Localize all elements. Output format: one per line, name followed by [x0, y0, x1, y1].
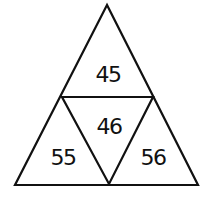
inner-inverted-triangle	[62, 97, 153, 184]
right-cell-number: 56	[141, 145, 166, 170]
center-cell-number: 46	[97, 114, 122, 139]
outer-triangle	[15, 5, 198, 185]
triangle-diagram: 45 46 55 56	[0, 0, 200, 204]
top-cell-number: 45	[96, 62, 121, 87]
left-cell-number: 55	[51, 145, 76, 170]
